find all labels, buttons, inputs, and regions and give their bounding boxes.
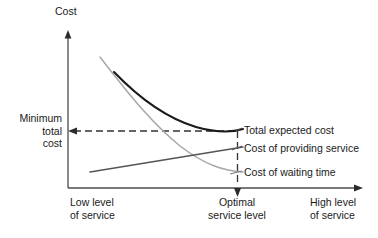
series-label-cost-of-providing-service: Cost of providing service — [244, 142, 359, 155]
optimal-service-level-label: Optimal service level — [187, 196, 287, 221]
minimum-total-cost-label: Minimum total cost — [8, 112, 62, 150]
x-axis-arrowhead — [354, 184, 363, 191]
optimal-service-guide-line — [234, 131, 241, 197]
y-axis-title: Cost — [55, 5, 77, 18]
high-level-of-service-label: High level of service — [310, 196, 356, 221]
service-cost-tradeoff-chart: Cost Minimum total cost Low level of ser… — [0, 0, 378, 238]
low-level-of-service-label: Low level of service — [70, 196, 115, 221]
series-total-expected-cost — [114, 72, 243, 131]
series-cost-of-waiting-time — [100, 57, 243, 172]
series-label-cost-of-waiting-time: Cost of waiting time — [244, 166, 336, 179]
x-axis — [68, 184, 363, 191]
y-axis — [65, 30, 72, 188]
minimum-cost-arrowhead — [68, 127, 77, 134]
y-axis-arrowhead — [65, 30, 72, 39]
series-label-total-expected-cost: Total expected cost — [244, 124, 334, 137]
